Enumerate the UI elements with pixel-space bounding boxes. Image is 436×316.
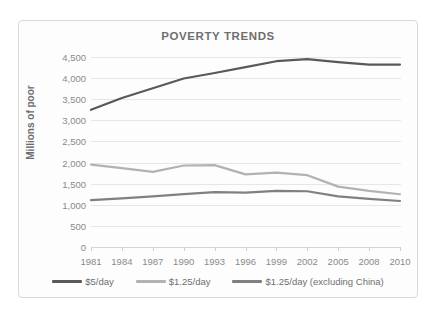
legend-color-swatch [232, 280, 262, 283]
y-axis-tick-label: 2,500 [62, 136, 86, 147]
series-line [91, 191, 400, 201]
x-axis-tick-label: 2002 [297, 256, 318, 267]
x-axis-tick-label: 2010 [389, 256, 410, 267]
y-axis-tick-label: 3,000 [62, 115, 86, 126]
chart-title: POVERTY TRENDS [19, 30, 417, 42]
series-line [91, 165, 400, 195]
legend-color-swatch [136, 280, 166, 283]
y-axis-title: Millions of poor [25, 68, 36, 178]
chart-container: POVERTY TRENDS Millions of poor 4,5004,0… [18, 20, 418, 298]
y-axis-tick-label: 1,500 [62, 178, 86, 189]
legend-item[interactable]: $1.25/day [136, 276, 211, 287]
series-lines [91, 57, 401, 247]
legend-item[interactable]: $1.25/day (excluding China) [232, 276, 383, 287]
x-axis-tick-label: 1996 [235, 256, 256, 267]
x-axis-tick-label: 2005 [328, 256, 349, 267]
y-axis-tick-label: 0 [81, 242, 86, 253]
legend-color-swatch [52, 280, 82, 283]
x-axis-tick-mark [338, 247, 339, 251]
x-axis-tick-label: 1984 [111, 256, 132, 267]
legend-label: $5/day [85, 276, 114, 287]
x-axis-tick-mark [307, 247, 308, 251]
y-axis-tick-label: 3,500 [62, 94, 86, 105]
x-axis-tick-mark [246, 247, 247, 251]
x-axis-tick-label: 1990 [173, 256, 194, 267]
x-axis-tick-mark [91, 247, 92, 251]
plot-area: 4,5004,0003,5003,0002,5002,0001,5001,000… [91, 57, 401, 247]
x-axis-tick-label: 1981 [80, 256, 101, 267]
x-axis-tick-mark [369, 247, 370, 251]
y-axis-tick-label: 4,500 [62, 52, 86, 63]
x-axis-tick-label: 1987 [142, 256, 163, 267]
x-axis-tick-mark [153, 247, 154, 251]
legend-label: $1.25/day (excluding China) [265, 276, 383, 287]
chart-legend: $5/day$1.25/day$1.25/day (excluding Chin… [19, 276, 417, 287]
legend-item[interactable]: $5/day [52, 276, 114, 287]
y-axis-tick-label: 500 [70, 220, 86, 231]
series-line [91, 59, 400, 110]
x-axis-tick-label: 1993 [204, 256, 225, 267]
x-axis-tick-mark [215, 247, 216, 251]
y-axis-tick-label: 2,000 [62, 157, 86, 168]
x-axis-tick-label: 2008 [359, 256, 380, 267]
x-axis-tick-mark [122, 247, 123, 251]
x-axis-tick-mark [184, 247, 185, 251]
legend-label: $1.25/day [169, 276, 211, 287]
y-axis-tick-label: 1,000 [62, 199, 86, 210]
x-axis-tick-mark [276, 247, 277, 251]
y-axis-tick-label: 4,000 [62, 73, 86, 84]
x-axis-tick-mark [400, 247, 401, 251]
x-axis-tick-label: 1999 [266, 256, 287, 267]
